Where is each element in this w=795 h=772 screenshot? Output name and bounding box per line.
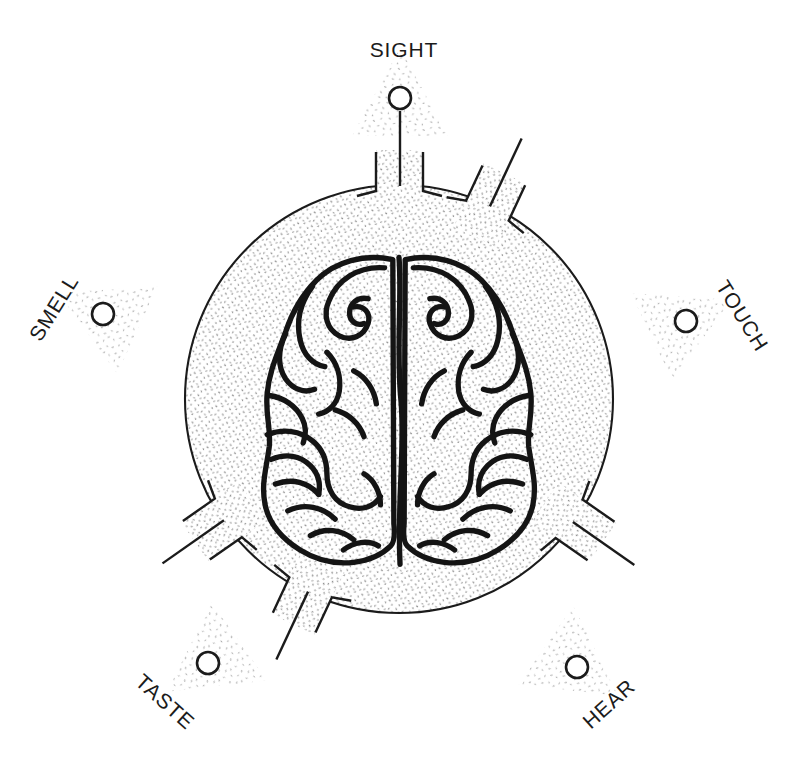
receptor-node-sight[interactable] <box>389 87 411 109</box>
brain-longitudinal-fissure <box>399 258 402 565</box>
sense-label-sight: SIGHT <box>370 38 439 62</box>
diagram-canvas: SIGHT SMELL TOUCH TASTE HEAR <box>0 0 795 772</box>
receptor-node-hear[interactable] <box>566 656 588 678</box>
senses-brain-diagram <box>0 0 795 772</box>
receptor-node-touch[interactable] <box>675 310 697 332</box>
receptor-node-taste[interactable] <box>197 652 219 674</box>
receptor-node-smell[interactable] <box>92 303 114 325</box>
